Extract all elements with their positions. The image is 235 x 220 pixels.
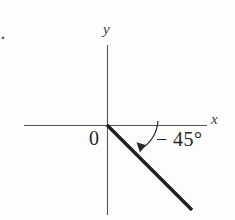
- y-axis-label: y: [103, 22, 110, 37]
- x-axis-label: x: [211, 112, 218, 127]
- coordinate-axes-svg: [0, 0, 235, 220]
- angle-measure-label: − 45°: [156, 129, 202, 149]
- item-marker: .: [1, 27, 8, 43]
- math-figure: . y x 0 − 45°: [0, 0, 235, 220]
- origin-label: 0: [89, 128, 99, 148]
